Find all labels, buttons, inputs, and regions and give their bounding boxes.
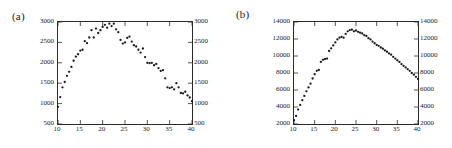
- panel-b-ytick-left-3: 8000: [276, 69, 290, 76]
- panel-b-ytick-right-6: 14000: [420, 18, 438, 25]
- panel-a-plot-area: [57, 21, 193, 125]
- panel-b-ytick-right-3: 8000: [420, 69, 434, 76]
- panel-a-xtick-0: 10: [54, 126, 61, 133]
- panel-b-xtick-3: 25: [352, 126, 359, 133]
- panel-a-ytick-right-3: 2000: [194, 58, 208, 65]
- panel-a-xtick-2: 20: [98, 126, 105, 133]
- panel-b-xtick-5: 35: [393, 126, 400, 133]
- panel-b-xtick-6: 40: [414, 126, 421, 133]
- panel-a: (a) 500500100010001500150020002000250025…: [0, 0, 226, 148]
- panel-b-ytick-right-5: 12000: [420, 35, 438, 42]
- panel-b-ytick-left-5: 12000: [273, 35, 291, 42]
- panel-b-ytick-right-1: 4000: [420, 103, 434, 110]
- panel-b-ytick-right-0: 2000: [420, 120, 434, 127]
- panel-b-ytick-left-4: 10000: [273, 52, 291, 59]
- panel-b-xtick-0: 10: [290, 126, 297, 133]
- panel-a-ytick-right-5: 3000: [194, 18, 208, 25]
- panel-a-ytick-left-2: 1500: [40, 79, 54, 86]
- panel-b-ytick-left-6: 14000: [273, 18, 291, 25]
- panel-a-xtick-3: 25: [121, 126, 128, 133]
- panel-a-ytick-left-3: 2000: [40, 58, 54, 65]
- panel-b: (b) 200020004000400060006000800080001000…: [226, 0, 452, 148]
- panel-b-ytick-left-2: 6000: [276, 86, 290, 93]
- panel-a-ytick-left-5: 3000: [40, 18, 54, 25]
- panel-a-xtick-4: 30: [143, 126, 150, 133]
- panel-b-datapoints: [294, 22, 420, 126]
- panel-a-label: (a): [12, 10, 25, 22]
- panel-a-ytick-right-0: 500: [194, 120, 205, 127]
- panel-b-ytick-right-2: 6000: [420, 86, 434, 93]
- panel-a-ytick-left-4: 2500: [40, 38, 54, 45]
- figure-container: (a) 500500100010001500150020002000250025…: [0, 0, 452, 148]
- panel-a-datapoints: [58, 22, 194, 126]
- panel-a-xtick-1: 15: [76, 126, 83, 133]
- panel-a-ytick-left-1: 1000: [40, 99, 54, 106]
- panel-b-xtick-1: 15: [310, 126, 317, 133]
- panel-a-ytick-right-1: 1000: [194, 99, 208, 106]
- panel-b-xtick-2: 20: [331, 126, 338, 133]
- panel-a-ytick-right-4: 2500: [194, 38, 208, 45]
- panel-b-ytick-right-4: 10000: [420, 52, 438, 59]
- panel-b-label: (b): [236, 8, 249, 20]
- panel-a-xtick-6: 40: [188, 126, 195, 133]
- panel-b-xtick-4: 30: [372, 126, 379, 133]
- panel-b-ytick-left-1: 4000: [276, 103, 290, 110]
- panel-a-xtick-5: 35: [165, 126, 172, 133]
- panel-a-ytick-right-2: 1500: [194, 79, 208, 86]
- panel-b-ytick-left-0: 2000: [276, 120, 290, 127]
- panel-b-plot-area: [293, 21, 419, 125]
- panel-a-ytick-left-0: 500: [44, 120, 55, 127]
